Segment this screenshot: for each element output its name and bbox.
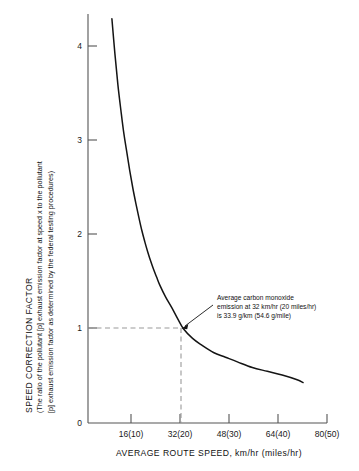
x-tick-label-64: 64(40) [266,429,291,439]
y-tick-label-3: 3 [77,135,82,145]
speed-correction-factor-chart: 4 3 2 1 0 16(10) 32(20) 48(30) 64(40) 80… [0,0,359,471]
x-tick-label-32: 32(20) [168,429,193,439]
y-tick-label-4: 4 [77,41,82,51]
x-tick-label-0: 0 [77,418,82,428]
x-axis-title: AVERAGE ROUTE SPEED, km/hr (miles/hr) [116,448,302,458]
x-tick-label-48: 48(30) [217,429,242,439]
annotation-arrow [182,305,213,329]
annotation-line-1: Average carbon monoxide [217,294,294,302]
chart-figure: 4 3 2 1 0 16(10) 32(20) 48(30) 64(40) 80… [0,0,359,471]
y-tick-label-2: 2 [77,229,82,239]
annotation-line-3: is 33.9 g/km (54.6 g/mile) [217,312,291,320]
y-axis-ticks [88,46,97,328]
y-tick-label-1: 1 [77,323,82,333]
annotation-line-2: emission at 32 km/hr (20 miles/hr) [217,303,316,311]
x-axis-ticks [131,414,327,423]
x-tick-label-80: 80(50) [315,429,340,439]
x-tick-label-16: 16(10) [119,429,144,439]
